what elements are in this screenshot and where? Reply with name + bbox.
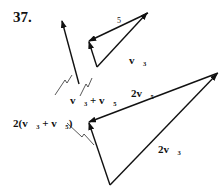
label-two-v3: 2v⃗₃	[158, 144, 181, 155]
label-v3-plus-v5: v⃗₃ + v⃗₅	[70, 95, 116, 106]
leader-line-1	[55, 75, 72, 95]
two-v3-arrow	[110, 74, 217, 185]
label-two-v3-plus-v5: 2(v⃗₃ + v⃗₅)	[13, 118, 72, 129]
v3-plus-v5-arrow	[89, 42, 97, 67]
two-v3-plus-v5-arrow-top	[62, 21, 79, 84]
label-v3: v⃗₃	[129, 55, 146, 66]
problem-number: 37.	[13, 10, 32, 25]
label-two-v5: 2v⃗₅	[131, 88, 154, 99]
two-v3-plus-v5-arrow	[89, 123, 110, 185]
label-side-5: 5	[117, 17, 121, 25]
vector-diagram: 37. 5 v⃗₃ v⃗₃ + v⃗₅ 2(v⃗₃ + v⃗₅) 2v⃗₅ 2v…	[0, 0, 222, 188]
